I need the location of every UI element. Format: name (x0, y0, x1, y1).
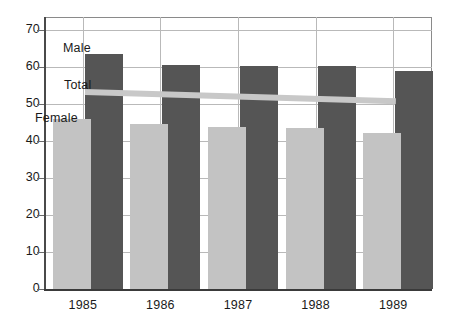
bar-female-1986 (130, 124, 168, 289)
series-annotation-male: Male (63, 41, 91, 55)
series-annotation-total: Total (64, 78, 91, 92)
chart-figure: 010203040506070 19851986198719881989 Mal… (0, 0, 452, 330)
bar-female-1989 (363, 133, 401, 290)
bar-female-1987 (208, 127, 246, 289)
y-tick-mark-10 (37, 252, 44, 253)
y-axis-line (44, 17, 46, 290)
series-annotation-female: Female (35, 111, 78, 125)
y-tick-label-50: 50 (2, 96, 40, 110)
y-tick-label-30: 30 (2, 170, 40, 184)
y-tick-mark-60 (37, 67, 44, 68)
y-tick-mark-50 (37, 104, 44, 105)
y-tick-mark-0 (37, 289, 44, 290)
y-tick-label-20: 20 (2, 207, 40, 221)
x-tick-label-1988: 1988 (276, 298, 356, 312)
y-tick-label-70: 70 (2, 22, 40, 36)
y-tick-label-40: 40 (2, 133, 40, 147)
y-tick-mark-30 (37, 178, 44, 179)
x-tick-label-1987: 1987 (198, 298, 278, 312)
x-tick-label-1985: 1985 (43, 298, 123, 312)
y-tick-mark-40 (37, 141, 44, 142)
bar-female-1985 (53, 119, 91, 289)
x-tick-label-1989: 1989 (353, 298, 433, 312)
y-tick-mark-20 (37, 215, 44, 216)
y-tick-label-10: 10 (2, 244, 40, 258)
bar-female-1988 (286, 128, 324, 289)
y-tick-label-0: 0 (2, 281, 40, 295)
x-tick-label-1986: 1986 (120, 298, 200, 312)
y-tick-label-60: 60 (2, 59, 40, 73)
y-tick-mark-70 (37, 30, 44, 31)
